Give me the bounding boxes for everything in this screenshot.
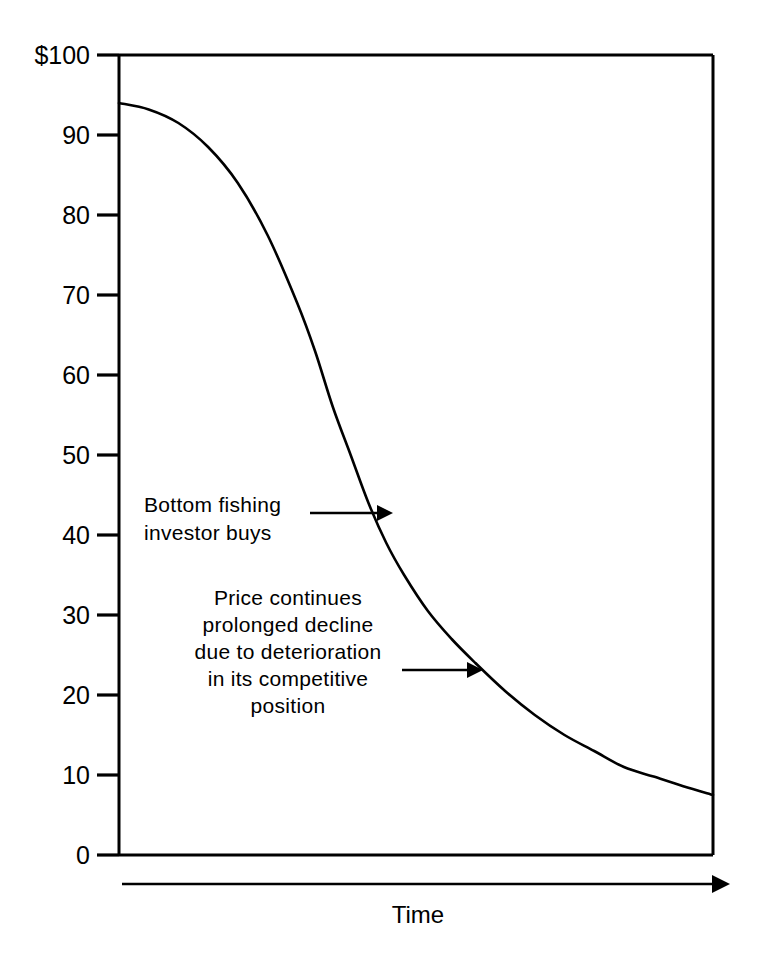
arrow-head-icon bbox=[712, 875, 730, 893]
annotation-prolonged-decline: Price continues prolonged decline due to… bbox=[195, 586, 483, 717]
arrow-head-icon bbox=[377, 505, 393, 521]
y-tick-label: 90 bbox=[62, 121, 90, 149]
y-tick-label: 70 bbox=[62, 281, 90, 309]
y-tick-label: 40 bbox=[62, 521, 90, 549]
annotation-line: due to deterioration bbox=[195, 640, 382, 663]
chart-container: $100 90 80 70 60 50 40 30 20 10 0 Bottom… bbox=[0, 0, 757, 953]
plot-frame bbox=[119, 55, 713, 855]
annotation-line: investor buys bbox=[144, 521, 272, 544]
annotation-line: position bbox=[251, 694, 326, 717]
y-tick-label: 20 bbox=[62, 681, 90, 709]
price-decline-curve bbox=[119, 103, 713, 795]
y-axis-tick-labels: $100 90 80 70 60 50 40 30 20 10 0 bbox=[34, 41, 90, 869]
annotation-line: Bottom fishing bbox=[144, 493, 281, 516]
annotation-line: Price continues bbox=[214, 586, 362, 609]
y-tick-label: 0 bbox=[76, 841, 90, 869]
price-decline-line-chart: $100 90 80 70 60 50 40 30 20 10 0 Bottom… bbox=[0, 0, 757, 953]
time-axis-arrow bbox=[122, 875, 730, 893]
y-tick-label: 30 bbox=[62, 601, 90, 629]
y-tick-label: 60 bbox=[62, 361, 90, 389]
y-tick-label: 80 bbox=[62, 201, 90, 229]
y-axis-ticks bbox=[97, 55, 119, 855]
annotation-bottom-fishing: Bottom fishing investor buys bbox=[144, 493, 393, 544]
y-tick-label: 10 bbox=[62, 761, 90, 789]
y-tick-label: $100 bbox=[34, 41, 90, 69]
annotation-line: in its competitive bbox=[208, 667, 369, 690]
annotation-line: prolonged decline bbox=[203, 613, 374, 636]
x-axis-title: Time bbox=[392, 901, 444, 928]
y-tick-label: 50 bbox=[62, 441, 90, 469]
